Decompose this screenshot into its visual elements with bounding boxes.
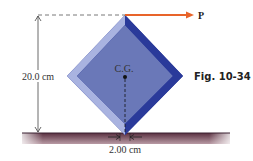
figure-caption: Fig. 10-34 bbox=[194, 71, 251, 82]
base-label: 2.00 cm bbox=[109, 144, 141, 155]
figure-canvas: 20.0 cm P C.G. 2.00 cm Fig. 10-34 bbox=[0, 0, 253, 161]
force-arrow bbox=[125, 12, 194, 19]
force-label: P bbox=[198, 10, 204, 21]
height-label: 20.0 cm bbox=[22, 71, 54, 82]
cg-point bbox=[123, 75, 127, 79]
ground bbox=[22, 133, 230, 144]
diagram: 20.0 cm P C.G. 2.00 cm Fig. 10-34 bbox=[0, 0, 253, 161]
cg-label: C.G. bbox=[115, 63, 134, 74]
